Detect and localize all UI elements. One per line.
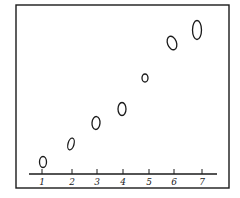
scatter-diagram: 1234567 [0, 0, 240, 198]
x-tick-label: 2 [68, 177, 75, 187]
x-tick-label: 7 [199, 177, 205, 187]
x-tick-label: 4 [119, 177, 126, 187]
data-point-marker [40, 157, 47, 168]
x-tick-label: 6 [171, 177, 177, 187]
x-axis-ticks [42, 169, 202, 174]
data-point-marker [91, 116, 100, 130]
figure-frame [16, 5, 229, 188]
x-tick-label: 5 [146, 177, 152, 187]
x-tick-label: 3 [94, 177, 100, 187]
data-point-marker [118, 103, 126, 116]
data-point-marker [142, 74, 148, 82]
data-point-marker [165, 35, 178, 51]
x-axis-labels: 1234567 [39, 177, 205, 187]
data-point-marker [193, 21, 202, 40]
data-point-marker [67, 137, 76, 150]
data-points [40, 21, 202, 168]
x-tick-label: 1 [39, 177, 45, 187]
